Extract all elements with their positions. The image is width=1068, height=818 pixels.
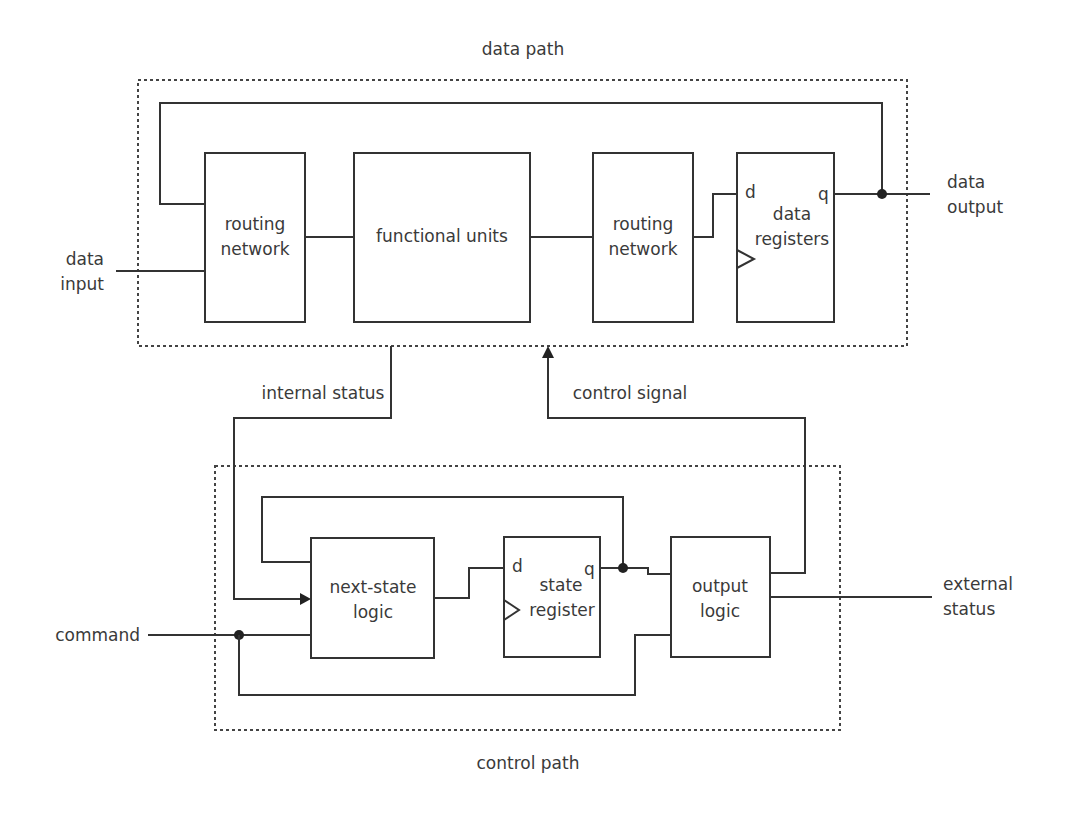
d-pin-label: d: [512, 556, 523, 576]
data-path-label: data path: [482, 39, 564, 59]
block-label: output: [692, 576, 748, 596]
block-label: data: [773, 204, 811, 224]
nsl-to-sreg-wire: [434, 568, 504, 598]
datapath-controlpath-diagram: data path control path routing network f…: [0, 0, 1068, 818]
block-label: state: [539, 575, 582, 595]
q-pin-label: q: [584, 559, 595, 579]
control-signal-label: control signal: [573, 383, 688, 403]
block-label: register: [529, 600, 595, 620]
block-label: routing: [613, 214, 674, 234]
arrow-up-icon: [542, 346, 554, 358]
block-label: registers: [755, 229, 830, 249]
block-label: logic: [353, 602, 393, 622]
state-register-block: d q state register: [504, 537, 600, 657]
control-path-label: control path: [477, 753, 580, 773]
routing-to-dreg-wire: [693, 194, 737, 237]
data-output-label: data: [947, 172, 985, 192]
junction-dot: [618, 563, 628, 573]
q-pin-label: q: [818, 184, 829, 204]
d-pin-label: d: [745, 182, 756, 202]
data-output-label: output: [947, 197, 1003, 217]
functional-units-block: functional units: [354, 153, 530, 322]
block-label: logic: [700, 601, 740, 621]
data-input-label: data: [66, 249, 104, 269]
block-label: network: [608, 239, 677, 259]
arrow-right-icon: [300, 593, 311, 605]
external-status-label: external: [943, 574, 1013, 594]
block-label: functional units: [376, 226, 508, 246]
routing-network-out-block: routing network: [593, 153, 693, 322]
routing-network-in-block: routing network: [205, 153, 305, 322]
block-label: next-state: [330, 577, 417, 597]
sreg-to-ol-wire: [600, 568, 671, 574]
data-registers-block: d q data registers: [737, 153, 834, 322]
external-status-label: status: [943, 599, 995, 619]
output-logic-block: output logic: [671, 537, 770, 657]
data-input-label: input: [60, 274, 104, 294]
next-state-logic-block: next-state logic: [311, 538, 434, 658]
command-label: command: [55, 625, 140, 645]
block-label: routing: [225, 214, 286, 234]
junction-dot: [877, 189, 887, 199]
internal-status-label: internal status: [262, 383, 385, 403]
command-to-ol-wire: [239, 635, 671, 695]
block-label: network: [220, 239, 289, 259]
